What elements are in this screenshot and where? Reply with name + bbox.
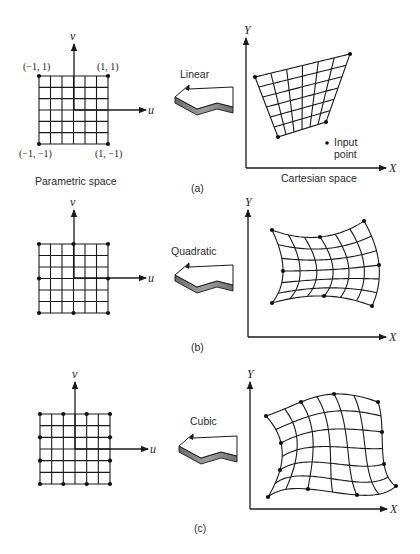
quadratic-mesh	[270, 219, 381, 308]
v-axis-label: v	[70, 29, 76, 43]
control-point	[37, 311, 41, 315]
control-point	[276, 135, 280, 139]
input-point-label-line2: point	[334, 148, 357, 160]
control-point	[38, 435, 42, 439]
control-point	[106, 74, 110, 78]
control-point	[332, 392, 336, 396]
control-point	[266, 495, 270, 499]
control-point	[348, 52, 352, 56]
mapping-label-quadratic: Quadratic	[171, 245, 217, 257]
caption-a: (a)	[191, 182, 204, 194]
isoparametric-mapping-figure: v u (−1, 1) (1, 1) (−1, −1) (1, −1) Para…	[0, 0, 420, 554]
control-point	[38, 412, 42, 416]
mapping-label-cubic: Cubic	[190, 415, 217, 427]
control-point	[108, 412, 112, 416]
x-axis-label: X	[389, 502, 398, 516]
corner-label-top-right: (1, 1)	[97, 61, 119, 73]
control-point	[278, 468, 282, 472]
control-point	[318, 235, 322, 239]
control-point	[37, 142, 41, 146]
caption-b: (b)	[191, 341, 204, 353]
corner-label-bottom-left: (−1, −1)	[19, 148, 52, 160]
x-axis-label: X	[388, 161, 397, 175]
linear-mesh	[253, 52, 352, 139]
control-point	[370, 304, 374, 308]
control-point	[382, 462, 386, 466]
control-point	[61, 482, 65, 486]
mapping-arrow-icon	[175, 85, 233, 115]
x-axis-label: X	[388, 330, 397, 344]
panel-b: v u Quadratic Y X (b)	[37, 195, 397, 353]
control-point	[377, 263, 381, 267]
y-axis-label: Y	[244, 23, 252, 37]
corner-label-bottom-right: (1, −1)	[95, 148, 122, 160]
control-point	[306, 487, 310, 491]
u-axis-label: u	[150, 442, 156, 456]
cartesian-axes-a	[246, 38, 386, 168]
u-axis-label: u	[148, 103, 154, 117]
control-point	[71, 311, 75, 315]
control-point	[106, 242, 110, 246]
u-axis-label: u	[148, 271, 154, 285]
control-point	[61, 412, 65, 416]
mapping-arrow-icon	[179, 434, 237, 464]
control-point	[324, 120, 328, 124]
mapping-label-linear: Linear	[180, 68, 210, 80]
cubic-mesh	[264, 392, 398, 499]
panel-a: v u (−1, 1) (1, 1) (−1, −1) (1, −1) Para…	[19, 23, 397, 194]
control-point	[394, 484, 398, 488]
control-point	[106, 311, 110, 315]
control-point	[270, 228, 274, 232]
control-point	[380, 430, 384, 434]
control-point	[264, 414, 268, 418]
control-point	[299, 400, 303, 404]
panel-c: v u Cubic Y X (c)	[38, 367, 398, 534]
control-point	[37, 74, 41, 78]
control-point	[85, 482, 89, 486]
control-point	[362, 219, 366, 223]
control-point	[279, 441, 283, 445]
control-point	[376, 400, 380, 404]
control-point	[355, 493, 359, 497]
caption-c: (c)	[194, 522, 206, 534]
control-point	[37, 276, 41, 280]
control-point	[85, 412, 89, 416]
mapping-arrow-icon	[175, 263, 233, 293]
control-point	[108, 459, 112, 463]
control-point	[38, 482, 42, 486]
v-axis-label: v	[72, 367, 78, 381]
control-point	[37, 242, 41, 246]
y-axis-label: Y	[247, 367, 255, 381]
input-point-marker	[325, 141, 329, 145]
control-point	[253, 75, 257, 79]
corner-label-top-left: (−1, 1)	[23, 61, 50, 73]
control-point	[38, 459, 42, 463]
control-point	[270, 301, 274, 305]
control-point	[281, 269, 285, 273]
control-point	[106, 142, 110, 146]
input-point-label-line1: Input	[334, 136, 357, 148]
control-point	[108, 482, 112, 486]
control-point	[322, 294, 326, 298]
parametric-space-title: Parametric space	[35, 175, 117, 187]
cartesian-space-title: Cartesian space	[281, 172, 357, 184]
control-point	[108, 435, 112, 439]
v-axis-label: v	[70, 195, 76, 209]
y-axis-label: Y	[245, 195, 253, 209]
